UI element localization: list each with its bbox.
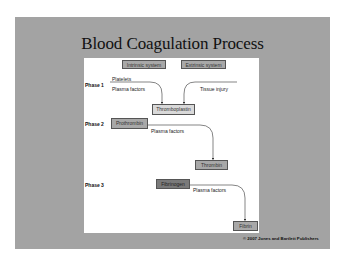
- phase-1-label: Phase 1: [85, 82, 104, 88]
- plasma-factors-label-2: Plasma factors: [151, 128, 184, 134]
- prothrombin-box: Prothrombin: [111, 118, 148, 129]
- fibrin-box: Fibrin: [233, 221, 258, 231]
- phase-3-label: Phase 3: [85, 182, 104, 188]
- tissue-injury-label: Tissue injury: [200, 86, 228, 92]
- extrinsic-system-box: Extrinsic system: [181, 60, 226, 69]
- fibrinogen-box: Fibrinogen: [156, 179, 190, 189]
- thromboplastin-box: Thromboplastin: [152, 104, 195, 115]
- phase-2-label: Phase 2: [85, 121, 104, 127]
- platelets-label: Platelets: [112, 76, 131, 82]
- plasma-factors-label-1: Plasma factors: [112, 86, 145, 92]
- copyright-text: © 2007 Jones and Bartlett Publishers: [243, 236, 319, 241]
- intrinsic-system-box: Intrinsic system: [122, 60, 166, 69]
- plasma-factors-label-3: Plasma factors: [193, 187, 226, 193]
- thrombin-box: Thrombin: [195, 160, 228, 170]
